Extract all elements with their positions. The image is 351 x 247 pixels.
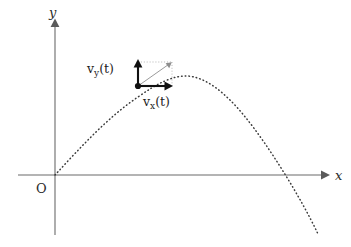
- x-axis-label: x: [335, 168, 343, 183]
- projectile-motion-diagram: y x O vy(t) vx(t): [0, 0, 351, 247]
- x-axis-arrowhead: [321, 171, 330, 180]
- origin-label: O: [36, 181, 47, 196]
- resultant-vector-line: [138, 65, 169, 87]
- vx-label: vx(t): [142, 94, 170, 111]
- vx-label-argument: (t): [155, 94, 170, 109]
- axes-group: [18, 19, 330, 236]
- vy-label-argument: (t): [99, 61, 114, 76]
- vy-vector-arrowhead: [134, 59, 143, 68]
- figure-root: y x O vy(t) vx(t): [0, 0, 351, 247]
- resultant-velocity-vector: [138, 62, 172, 86]
- trajectory-group: [55, 76, 318, 234]
- y-axis-label: y: [48, 5, 57, 20]
- resultant-vector-arrowhead: [166, 62, 172, 68]
- particle-dot: [135, 83, 141, 89]
- vy-vector: [134, 59, 143, 86]
- vx-vector: [138, 82, 173, 91]
- vy-label: vy(t): [86, 61, 114, 78]
- projectile-trajectory-curve: [55, 76, 318, 234]
